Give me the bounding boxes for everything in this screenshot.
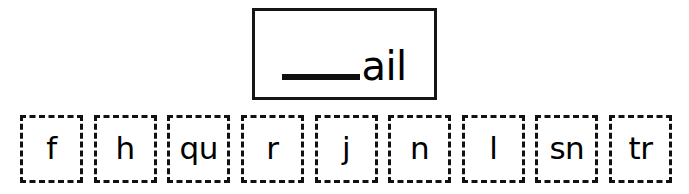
letter-tile-label: h [116, 133, 135, 164]
letter-tiles-row: f h qu r j n l sn tr [20, 114, 672, 184]
letter-tile-label: sn [549, 133, 584, 164]
letter-tile-h[interactable]: h [94, 115, 157, 183]
letter-tile-label: qu [180, 133, 218, 164]
letter-tile-tr[interactable]: tr [609, 115, 672, 183]
letter-tile-label: l [489, 133, 497, 164]
letter-tile-qu[interactable]: qu [167, 115, 230, 183]
word-box: ail [252, 8, 437, 100]
blank-line[interactable] [282, 74, 360, 80]
letter-tile-l[interactable]: l [462, 115, 525, 183]
word-prompt: ail [255, 47, 434, 85]
letter-tile-label: n [410, 133, 429, 164]
letter-tile-r[interactable]: r [241, 115, 304, 183]
letter-tile-label: j [342, 133, 350, 164]
letter-tile-f[interactable]: f [20, 115, 83, 183]
word-ending: ail [361, 47, 406, 85]
letter-tile-label: f [46, 133, 56, 164]
letter-tile-label: tr [629, 133, 653, 164]
letter-tile-sn[interactable]: sn [535, 115, 598, 183]
letter-tile-label: r [266, 133, 278, 164]
letter-tile-n[interactable]: n [388, 115, 451, 183]
letter-tile-j[interactable]: j [315, 115, 378, 183]
